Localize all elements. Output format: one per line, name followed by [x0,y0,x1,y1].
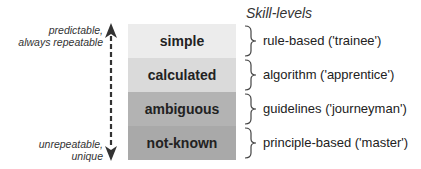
brace-icon [243,92,259,126]
skill-label: rule-based ('trainee') [263,33,381,48]
level-stack: simple calculated ambiguous not-known [128,24,236,160]
skill-label: algorithm ('apprentice') [263,67,394,82]
unrepeatable-label: unrepeatable, unique [39,138,103,162]
level-label: ambiguous [145,101,220,117]
level-label: calculated [148,67,216,83]
level-simple: simple [128,24,236,58]
unrepeatable-label-line2: unique [39,150,103,162]
level-calculated: calculated [128,58,236,92]
skill-label: guidelines ('journeyman') [263,101,407,116]
level-not-known: not-known [128,126,236,160]
skill-label: principle-based ('master') [263,135,408,150]
predictable-label-line2: always repeatable [18,36,103,48]
predictable-label: predictable, always repeatable [18,24,103,48]
brace-icon [243,24,259,58]
level-label: not-known [147,135,218,151]
skill-levels-title: Skill-levels [246,5,312,21]
unrepeatable-label-line1: unrepeatable, [39,138,103,150]
level-ambiguous: ambiguous [128,92,236,126]
level-label: simple [160,33,204,49]
brace-icon [243,126,259,160]
brace-icon [243,58,259,92]
double-arrow-icon [103,22,119,162]
predictable-label-line1: predictable, [18,24,103,36]
